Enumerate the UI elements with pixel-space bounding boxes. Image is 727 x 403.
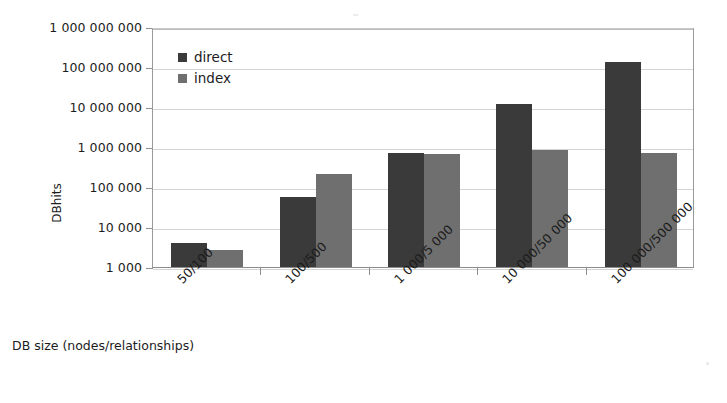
gridline <box>153 29 693 30</box>
chart-legend: direct index <box>178 47 233 89</box>
bar-direct[interactable] <box>496 104 532 267</box>
legend-label-direct: direct <box>194 47 233 68</box>
square-swatch-icon <box>178 74 187 83</box>
plot-area <box>152 28 694 268</box>
x-axis-title: DB size (nodes/relationships) <box>12 338 194 353</box>
scan-speckle <box>353 14 358 16</box>
gridline <box>153 269 693 270</box>
y-tick-label: 100 000 000 <box>0 62 142 74</box>
legend-label-index: index <box>194 68 231 89</box>
y-axis-title: DBhits <box>50 158 64 248</box>
legend-item-index[interactable]: index <box>178 68 233 89</box>
x-tick-mark <box>586 268 587 275</box>
scan-speckle <box>706 362 709 365</box>
x-tick-mark <box>260 268 261 275</box>
x-tick-mark <box>369 268 370 275</box>
y-tick-label: 1 000 000 000 <box>0 22 142 34</box>
y-tick-label: 1 000 <box>0 262 142 274</box>
x-tick-mark <box>477 268 478 275</box>
bar-direct[interactable] <box>605 62 641 267</box>
y-tick-mark <box>146 268 153 269</box>
square-swatch-icon <box>178 53 187 62</box>
y-tick-label: 10 000 <box>0 222 142 234</box>
chart-figure: 1 000 000 000100 000 00010 000 0001 000 … <box>0 0 727 403</box>
legend-item-direct[interactable]: direct <box>178 47 233 68</box>
y-tick-label: 10 000 000 <box>0 102 142 114</box>
y-tick-label: 100 000 <box>0 182 142 194</box>
y-tick-label: 1 000 000 <box>0 142 142 154</box>
